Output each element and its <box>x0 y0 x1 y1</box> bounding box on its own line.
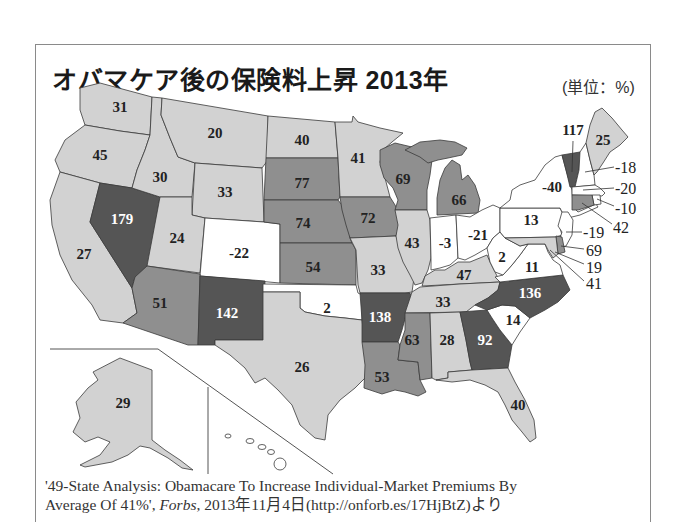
value-louisiana: 53 <box>375 369 390 385</box>
value-west-virginia: 2 <box>498 249 506 265</box>
value-california: 27 <box>77 246 93 262</box>
value-new-hampshire: -18 <box>615 159 636 176</box>
value-oklahoma: 2 <box>323 300 331 316</box>
caption-line-1: '49-State Analysis: Obamacare To Increas… <box>45 476 517 495</box>
value-kansas: 54 <box>306 259 322 275</box>
value-south-carolina: 14 <box>506 312 522 328</box>
value-nevada: 179 <box>111 211 134 227</box>
value-kentucky: 47 <box>457 267 473 283</box>
us-premium-map: 31 45 27 179 30 20 33 24 -22 51 142 40 7… <box>0 0 684 522</box>
value-rhode-island: -10 <box>615 200 636 217</box>
value-utah: 24 <box>170 230 186 246</box>
caption-line-2: Average Of 41%', Forbs, 2013年11月4日(http:… <box>45 495 517 514</box>
value-tennessee: 33 <box>436 294 451 310</box>
value-illinois: 43 <box>405 235 420 251</box>
value-vermont: 117 <box>562 122 584 138</box>
value-wisconsin: 69 <box>396 171 411 187</box>
value-montana: 20 <box>208 125 223 141</box>
value-maine: 25 <box>596 132 611 148</box>
value-nebraska: 74 <box>296 215 312 231</box>
value-pennsylvania: 13 <box>524 212 539 228</box>
value-missouri: 33 <box>371 262 386 278</box>
value-alabama: 28 <box>440 332 455 348</box>
value-wyoming: 33 <box>218 184 233 200</box>
caption-article-tail: Average Of 41%', <box>45 496 159 513</box>
value-minnesota: 41 <box>351 150 366 166</box>
value-michigan: 66 <box>452 192 468 208</box>
value-idaho: 30 <box>153 169 168 185</box>
value-colorado: -22 <box>229 245 249 261</box>
value-florida: 40 <box>511 397 526 413</box>
value-connecticut: 42 <box>613 219 629 236</box>
state-massachusetts <box>572 185 605 196</box>
value-maryland: 19 <box>586 259 602 276</box>
value-new-jersey: -19 <box>583 224 604 241</box>
caption-source-name: Forbs <box>159 496 196 513</box>
value-washington: 31 <box>113 99 128 115</box>
state-hawaii <box>225 434 286 470</box>
value-delaware: 69 <box>586 242 602 259</box>
value-arkansas: 138 <box>369 309 392 325</box>
value-new-york: -40 <box>542 179 562 195</box>
source-caption: '49-State Analysis: Obamacare To Increas… <box>45 476 517 514</box>
value-north-dakota: 40 <box>295 132 310 148</box>
value-north-carolina: 136 <box>519 285 542 301</box>
value-texas: 26 <box>295 359 311 375</box>
value-south-dakota: 77 <box>295 175 311 191</box>
value-new-mexico: 142 <box>216 305 239 321</box>
value-massachusetts: -20 <box>615 180 636 197</box>
value-alaska: 29 <box>116 395 131 411</box>
value-dc: 41 <box>586 275 602 292</box>
value-mississippi: 63 <box>405 332 420 348</box>
value-arizona: 51 <box>153 295 168 311</box>
value-ohio: -21 <box>468 227 488 243</box>
state-alaska <box>73 358 193 470</box>
value-virginia: 11 <box>525 259 539 275</box>
caption-date-url: , 2013年11月4日(http://onforb.es/17HjBtZ)より <box>196 496 502 513</box>
value-iowa: 72 <box>361 210 376 226</box>
value-georgia: 92 <box>478 332 493 348</box>
value-oregon: 45 <box>93 147 108 163</box>
value-indiana: -3 <box>439 235 452 251</box>
